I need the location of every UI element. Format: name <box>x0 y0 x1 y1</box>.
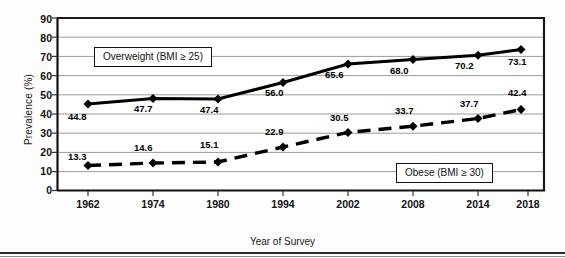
data-label-overweight-1994: 56.0 <box>265 88 284 98</box>
y-axis-ticks <box>52 18 57 191</box>
x-tick-label-1974: 1974 <box>131 199 175 210</box>
data-label-obese-2002: 30.5 <box>330 113 349 123</box>
data-label-overweight-2014: 70.2 <box>455 61 474 71</box>
data-label-obese-1974: 14.6 <box>134 143 153 153</box>
x-tick-label-2014: 2014 <box>456 199 500 210</box>
x-tick-label-2008: 2008 <box>391 199 435 210</box>
x-tick-label-1962: 1962 <box>66 199 110 210</box>
data-label-overweight-1980: 47.4 <box>200 105 219 115</box>
data-label-overweight-2018: 73.1 <box>508 57 527 67</box>
x-tick-label-2018: 2018 <box>506 199 550 210</box>
data-label-obese-1980: 15.1 <box>200 140 219 150</box>
legend-obese[interactable]: Obese (BMI ≥ 30) <box>396 163 493 183</box>
data-label-overweight-1974: 47.7 <box>134 104 153 114</box>
x-tick-label-2002: 2002 <box>326 199 370 210</box>
x-tick-label-1994: 1994 <box>261 199 305 210</box>
data-label-obese-2014: 37.7 <box>460 99 479 109</box>
data-label-obese-2008: 33.7 <box>395 106 414 116</box>
x-tick-label-1980: 1980 <box>196 199 240 210</box>
x-axis-ticks <box>88 191 528 196</box>
data-label-obese-1994: 22.9 <box>265 127 284 137</box>
x-axis-title: Year of Survey <box>0 236 565 247</box>
data-label-overweight-2002: 65.6 <box>325 70 344 80</box>
footer-divider-secondary <box>0 256 565 257</box>
footer-divider <box>0 252 565 254</box>
data-label-obese-2018: 42.4 <box>508 88 527 98</box>
legend-overweight[interactable]: Overweight (BMI ≥ 25) <box>94 47 212 67</box>
chart-container: Prevalence (%) 90 80 70 60 50 40 30 20 1… <box>0 0 565 258</box>
data-label-obese-1962: 13.3 <box>68 152 87 162</box>
data-label-overweight-1962: 44.8 <box>68 112 87 122</box>
data-label-overweight-2008: 68.0 <box>390 66 409 76</box>
